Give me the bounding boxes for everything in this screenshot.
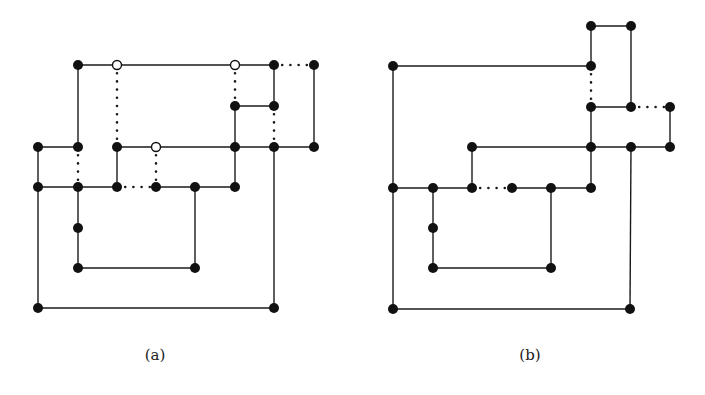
filled-vertex [112, 182, 122, 192]
filled-vertex [665, 102, 675, 112]
filled-vertex [586, 21, 596, 31]
filled-vertex [33, 142, 43, 152]
filled-vertex [428, 223, 438, 233]
filled-vertex [230, 101, 240, 111]
filled-vertex [269, 142, 279, 152]
panel-a-graph [33, 60, 319, 313]
filled-vertex [33, 303, 43, 313]
hollow-vertex [152, 143, 161, 152]
filled-vertex [309, 142, 319, 152]
filled-vertex [73, 182, 83, 192]
filled-vertex [626, 21, 636, 31]
filled-vertex [112, 142, 122, 152]
filled-vertex [586, 183, 596, 193]
panel-b-caption: (b) [519, 346, 540, 364]
filled-vertex [586, 102, 596, 112]
filled-vertex [546, 183, 556, 193]
filled-vertex [190, 263, 200, 273]
filled-vertex [586, 142, 596, 152]
hollow-vertex [113, 61, 122, 70]
filled-vertex [467, 142, 477, 152]
filled-vertex [546, 263, 556, 273]
filled-vertex [626, 142, 636, 152]
filled-vertex [230, 182, 240, 192]
filled-vertex [151, 182, 161, 192]
filled-vertex [428, 183, 438, 193]
filled-vertex [73, 263, 83, 273]
filled-vertex [388, 183, 398, 193]
filled-vertex [190, 182, 200, 192]
filled-vertex [626, 102, 636, 112]
filled-vertex [33, 182, 43, 192]
filled-vertex [388, 304, 398, 314]
filled-vertex [230, 142, 240, 152]
filled-vertex [625, 304, 635, 314]
hollow-vertex [231, 61, 240, 70]
panel-b-graph [388, 21, 675, 314]
figure-canvas [0, 0, 705, 395]
filled-vertex [665, 142, 675, 152]
filled-vertex [388, 61, 398, 71]
panel-b-nodes [388, 21, 675, 314]
filled-vertex [73, 142, 83, 152]
filled-vertex [586, 61, 596, 71]
filled-vertex [73, 223, 83, 233]
filled-vertex [269, 60, 279, 70]
solid-edge [630, 147, 631, 309]
filled-vertex [309, 60, 319, 70]
filled-vertex [73, 60, 83, 70]
panel-a-caption: (a) [145, 346, 166, 364]
filled-vertex [269, 303, 279, 313]
filled-vertex [507, 183, 517, 193]
filled-vertex [467, 183, 477, 193]
filled-vertex [269, 101, 279, 111]
filled-vertex [428, 263, 438, 273]
